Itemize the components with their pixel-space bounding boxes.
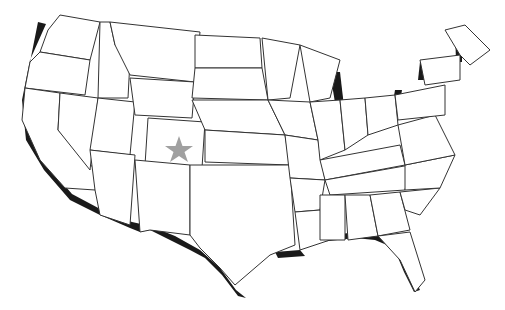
states — [22, 15, 490, 292]
us-map — [0, 0, 505, 310]
